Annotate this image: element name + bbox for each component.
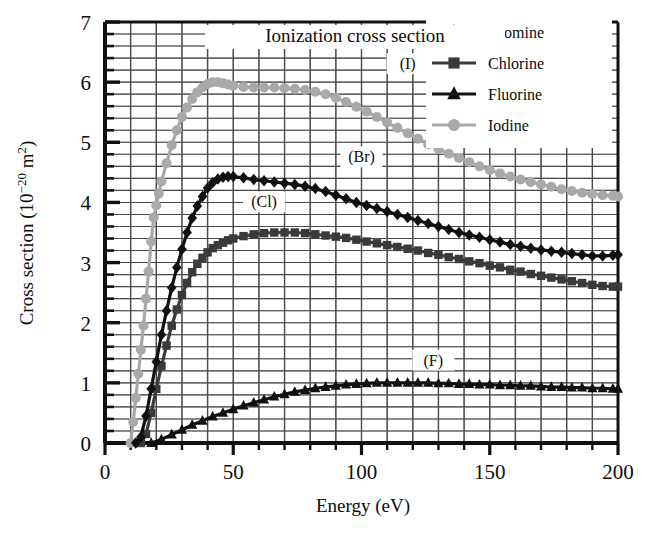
ionization-cross-section-chart: 050100150200 01234567 (I)(Br)(Cl)(F) Bro… [0, 0, 672, 537]
data-point-chlorine [414, 246, 422, 254]
data-point-iodine [577, 188, 587, 198]
data-point-iodine [372, 112, 382, 122]
data-point-chlorine [373, 239, 381, 247]
data-point-chlorine [537, 272, 545, 280]
data-point-chlorine [270, 228, 278, 236]
data-point-iodine [382, 117, 392, 127]
data-point-iodine [454, 153, 464, 163]
data-point-chlorine [188, 268, 196, 276]
legend-label: Chlorine [488, 55, 544, 72]
x-tick-label: 100 [346, 460, 378, 484]
data-point-chlorine [260, 229, 268, 237]
data-point-chlorine [527, 270, 535, 278]
y-tick-label: 4 [81, 191, 92, 215]
data-point-iodine [144, 267, 154, 277]
data-point-chlorine [229, 234, 237, 242]
legend-marker-square [448, 57, 459, 68]
data-point-iodine [536, 179, 546, 189]
data-point-iodine [392, 123, 402, 133]
data-point-chlorine [506, 266, 514, 274]
y-tick-label: 1 [81, 372, 92, 396]
data-point-chlorine [393, 243, 401, 251]
data-point-iodine [444, 149, 454, 159]
data-point-chlorine [434, 251, 442, 259]
data-point-iodine [474, 161, 484, 171]
data-point-chlorine [311, 230, 319, 238]
data-point-iodine [167, 140, 177, 150]
data-point-chlorine [403, 245, 411, 253]
data-point-chlorine [568, 277, 576, 285]
data-point-chlorine [352, 236, 360, 244]
data-point-chlorine [486, 261, 494, 269]
data-point-iodine [128, 417, 138, 427]
data-point-iodine [177, 112, 187, 122]
y-axis-label-unit: m [16, 153, 37, 173]
data-point-iodine [516, 175, 526, 185]
data-point-chlorine [280, 228, 288, 236]
y-tick-label: 6 [81, 71, 92, 95]
y-tick-label: 2 [81, 312, 92, 336]
x-tick-label: 0 [100, 460, 111, 484]
data-point-iodine [351, 102, 361, 112]
series-annotation: (I) [400, 55, 416, 73]
y-tick-label: 0 [81, 432, 92, 456]
data-point-chlorine [178, 291, 186, 299]
data-point-iodine [141, 294, 151, 304]
x-tick-label: 200 [602, 460, 634, 484]
data-point-iodine [557, 184, 567, 194]
svg-text:Cross section (10−20 m2): Cross section (10−20 m2) [14, 141, 38, 326]
y-axis-label: Cross section (10−20 m2) [14, 141, 38, 326]
data-point-chlorine [250, 230, 258, 238]
data-point-iodine [613, 191, 623, 201]
data-point-iodine [131, 393, 141, 403]
series-annotation: (Br) [348, 148, 375, 166]
data-point-chlorine [332, 233, 340, 241]
data-point-chlorine [162, 341, 170, 349]
data-point-chlorine [445, 253, 453, 261]
x-tick-label: 150 [474, 460, 506, 484]
y-tick-label: 3 [81, 252, 92, 276]
data-point-iodine [526, 177, 536, 187]
data-point-iodine [228, 81, 238, 91]
data-point-chlorine [183, 279, 191, 287]
data-point-chlorine [291, 228, 299, 236]
data-point-iodine [310, 87, 320, 97]
data-point-chlorine [239, 232, 247, 240]
data-point-iodine [362, 107, 372, 117]
data-point-iodine [495, 169, 505, 179]
data-point-iodine [259, 83, 269, 93]
data-point-chlorine [362, 237, 370, 245]
chart-title: Ionization cross section [265, 25, 445, 46]
chart-figure: 050100150200 01234567 (I)(Br)(Cl)(F) Bro… [0, 0, 672, 537]
data-point-iodine [149, 212, 159, 222]
data-point-chlorine [516, 267, 524, 275]
data-point-iodine [321, 89, 331, 99]
data-point-chlorine [424, 249, 432, 257]
y-axis-label-close: ) [16, 141, 38, 147]
y-axis-label-exponent: −20 [14, 173, 29, 193]
data-point-iodine [151, 200, 161, 210]
data-point-chlorine [301, 229, 309, 237]
data-point-iodine [136, 345, 146, 355]
data-point-chlorine [547, 273, 555, 281]
data-point-chlorine [588, 281, 596, 289]
data-point-chlorine [598, 282, 606, 290]
data-point-iodine [598, 190, 608, 200]
data-point-iodine [154, 188, 164, 198]
data-point-iodine [133, 369, 143, 379]
data-point-chlorine [167, 322, 175, 330]
data-point-chlorine [465, 257, 473, 265]
data-point-iodine [341, 97, 351, 107]
data-point-iodine [290, 84, 300, 94]
data-point-iodine [331, 93, 341, 103]
data-point-iodine [300, 85, 310, 95]
series-annotation: (Cl) [251, 193, 277, 211]
data-point-iodine [587, 189, 597, 199]
data-point-iodine [239, 82, 249, 92]
data-point-iodine [182, 102, 192, 112]
legend-marker-circle [448, 119, 460, 131]
data-point-chlorine [455, 255, 463, 263]
data-point-chlorine [614, 282, 622, 290]
data-point-iodine [162, 158, 172, 168]
data-point-iodine [403, 128, 413, 138]
